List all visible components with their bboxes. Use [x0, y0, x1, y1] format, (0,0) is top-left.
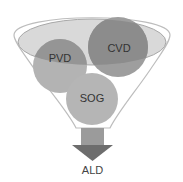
arrow-down-icon [72, 145, 113, 161]
ald-label: ALD [82, 164, 103, 176]
arrow-shaft [81, 128, 104, 146]
funnel-diagram: PVD CVD SOG ALD [0, 0, 183, 182]
sog-label: SOG [80, 92, 104, 104]
cvd-label: CVD [107, 42, 130, 54]
pvd-label: PVD [49, 52, 72, 64]
